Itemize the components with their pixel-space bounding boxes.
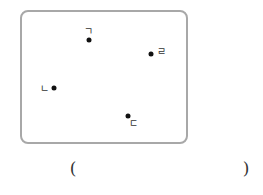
point-label-digeut: ㄷ bbox=[129, 119, 138, 129]
answer-open-paren: ( bbox=[70, 160, 77, 177]
point-dot-rieul bbox=[149, 52, 154, 57]
figure-box bbox=[20, 10, 188, 144]
point-dot-giyeok bbox=[87, 38, 92, 43]
answer-close-paren: ) bbox=[243, 160, 250, 177]
answer-blank[interactable] bbox=[82, 158, 238, 178]
point-label-rieul: ㄹ bbox=[157, 47, 166, 57]
point-label-giyeok: ㄱ bbox=[84, 27, 93, 37]
point-dot-nieun bbox=[52, 86, 57, 91]
point-label-nieun: ㄴ bbox=[40, 84, 49, 94]
